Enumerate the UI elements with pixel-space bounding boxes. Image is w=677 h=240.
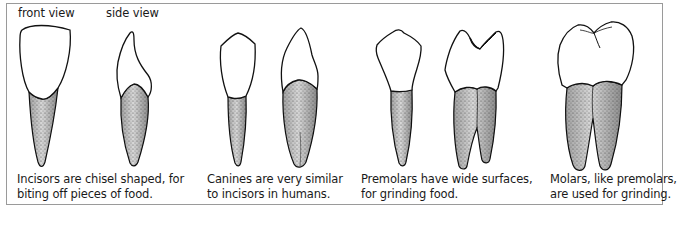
molar (558, 22, 634, 171)
incisor-side-view (117, 32, 151, 166)
canine-caption-line-2: to incisors in humans. (207, 187, 330, 202)
canine-front-crown (220, 33, 255, 98)
canine-front-view (220, 33, 255, 166)
premolar-side-view (445, 30, 504, 169)
canine-caption-line-1: Canines are very similar (207, 172, 343, 187)
canine-side-view (281, 28, 318, 167)
premolar-side-crown (445, 30, 504, 92)
premolar-front-view (376, 30, 421, 166)
molar-caption-line-2: are used for grinding. (550, 187, 671, 202)
incisor-front-view (20, 26, 71, 167)
incisor-caption-line-1: Incisors are chisel shaped, for (17, 172, 184, 187)
incisor-caption-line-2: biting off pieces of food. (17, 187, 153, 202)
premolar-caption-line-2: for grinding food. (361, 187, 458, 202)
molar-caption-line-1: Molars, like premolars, (550, 172, 677, 187)
premolar-caption-line-1: Premolars have wide surfaces, (361, 172, 532, 187)
premolar-front-crown (376, 30, 421, 92)
incisor-front-crown (20, 26, 71, 100)
